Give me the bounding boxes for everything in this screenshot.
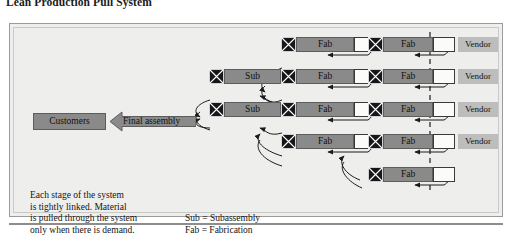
vendor-box[interactable]: Vendor	[458, 69, 498, 84]
process-box-fab[interactable]: Fab	[296, 134, 354, 149]
kanban-card-icon[interactable]	[368, 134, 383, 149]
final-assembly-label: Final assembly	[110, 111, 196, 132]
figure-bottom-rule	[9, 223, 503, 225]
figure-title: Lean Production Pull System	[6, 0, 152, 8]
final-assembly-node[interactable]: Final assembly	[110, 111, 196, 132]
vendor-box[interactable]: Vendor	[458, 134, 498, 149]
kanban-card-icon[interactable]	[368, 167, 383, 182]
diagram-panel: Customers Final assembly Fab Fab Vendor …	[9, 23, 503, 217]
process-box-fab[interactable]: Fab	[383, 37, 433, 52]
buffer-stock-box[interactable]	[433, 69, 455, 84]
process-box-fab[interactable]: Fab	[296, 69, 354, 84]
process-box-fab[interactable]: Fab	[296, 37, 354, 52]
process-box-sub[interactable]: Sub	[224, 102, 281, 117]
buffer-stock-box[interactable]	[433, 167, 455, 182]
process-box-fab[interactable]: Fab	[383, 134, 433, 149]
explanatory-note: Each stage of the system is tightly link…	[30, 190, 137, 236]
buffer-stock-box[interactable]	[433, 37, 455, 52]
process-box-fab[interactable]: Fab	[383, 69, 433, 84]
kanban-card-icon[interactable]	[281, 69, 296, 84]
kanban-card-icon[interactable]	[281, 37, 296, 52]
vendor-box[interactable]: Vendor	[458, 37, 498, 52]
kanban-card-icon[interactable]	[368, 102, 383, 117]
customers-box[interactable]: Customers	[33, 113, 106, 130]
kanban-card-icon[interactable]	[209, 102, 224, 117]
process-box-fab[interactable]: Fab	[383, 102, 433, 117]
process-box-fab[interactable]: Fab	[296, 102, 354, 117]
buffer-stock-box[interactable]	[433, 102, 455, 117]
kanban-card-icon[interactable]	[209, 69, 224, 84]
kanban-card-icon[interactable]	[368, 37, 383, 52]
kanban-card-icon[interactable]	[368, 69, 383, 84]
process-box-fab[interactable]: Fab	[383, 167, 433, 182]
vendor-box[interactable]: Vendor	[458, 102, 498, 117]
buffer-stock-box[interactable]	[433, 134, 455, 149]
kanban-card-icon[interactable]	[281, 134, 296, 149]
process-box-sub[interactable]: Sub	[224, 69, 281, 84]
kanban-card-icon[interactable]	[281, 102, 296, 117]
